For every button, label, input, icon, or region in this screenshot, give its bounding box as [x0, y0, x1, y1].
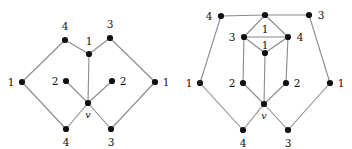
graph-edge [309, 15, 330, 83]
node-label-l-inner-2a: 2 [52, 76, 59, 87]
graph-edge [88, 103, 111, 129]
graph-edge [264, 83, 286, 104]
graph-node[interactable] [241, 34, 247, 40]
graph-edge [22, 82, 66, 129]
node-label-r-center-v: v [261, 111, 266, 121]
graph-node[interactable] [285, 34, 291, 40]
graph-node[interactable] [240, 127, 246, 133]
graph-node[interactable] [218, 13, 224, 19]
node-label-r-right-1: 1 [338, 78, 345, 89]
graph-node[interactable] [19, 79, 25, 85]
graph-node[interactable] [327, 80, 333, 86]
node-label-l-inner-2b: 2 [120, 76, 127, 87]
node-label-l-top-left-4: 4 [62, 21, 69, 32]
graph-edge [88, 81, 112, 103]
graph-node[interactable] [108, 126, 114, 132]
graph-node[interactable] [63, 78, 69, 84]
graph-node[interactable] [306, 12, 312, 18]
node-label-r-top-left-4: 4 [206, 11, 213, 22]
node-label-l-right-1: 1 [163, 77, 170, 88]
node-label-l-bot-right-3: 3 [108, 137, 115, 148]
node-label-r-mid-left-3: 3 [229, 32, 236, 43]
graph-node[interactable] [85, 100, 91, 106]
node-label-r-top-right-3: 3 [318, 10, 325, 21]
graph-edge [243, 37, 244, 83]
node-label-r-left-1: 1 [186, 78, 193, 89]
graph-node[interactable] [240, 80, 246, 86]
graph-edge [286, 37, 288, 83]
graph-edge [111, 82, 155, 129]
graph-node[interactable] [283, 80, 289, 86]
node-label-l-center-v: v [85, 110, 90, 120]
graph-node[interactable] [62, 37, 68, 43]
node-label-l-top-right-3: 3 [107, 19, 114, 30]
node-label-r-inner-1: 1 [262, 40, 269, 51]
graph-node[interactable] [197, 80, 203, 86]
graph-node[interactable] [261, 101, 267, 107]
graph-edge [264, 53, 265, 104]
node-label-l-left-1: 1 [8, 77, 15, 88]
graph-edge [221, 15, 265, 16]
node-label-r-mid-right-4: 4 [297, 32, 304, 43]
node-label-r-inner-2b: 2 [294, 78, 301, 89]
node-label-r-top-mid-1: 1 [262, 24, 269, 35]
node-label-l-bot-left-4: 4 [63, 137, 70, 148]
node-label-r-inner-2a: 2 [229, 78, 236, 89]
graph-node[interactable] [262, 12, 268, 18]
figure-container: 4311122v434133411122v43 [0, 0, 352, 149]
graph-edge [66, 81, 88, 103]
graph-edge [200, 16, 221, 83]
graph-edge [200, 83, 243, 130]
graph-edge [110, 38, 155, 82]
node-label-l-inner-1: 1 [86, 36, 93, 47]
graph-edge [265, 15, 288, 37]
graph-edge [88, 54, 89, 103]
graph-node[interactable] [86, 51, 92, 57]
graph-edge [288, 83, 330, 130]
node-label-r-bot-right-3: 3 [285, 138, 292, 149]
node-label-r-bot-left-4: 4 [240, 138, 247, 149]
graph-node[interactable] [107, 35, 113, 41]
graph-edge [243, 83, 264, 104]
graph-edge [264, 104, 288, 130]
graph-edge [22, 40, 65, 82]
graph-node[interactable] [152, 79, 158, 85]
graph-node[interactable] [63, 126, 69, 132]
graph-node[interactable] [109, 78, 115, 84]
graph-node[interactable] [262, 50, 268, 56]
graph-node[interactable] [285, 127, 291, 133]
graph-edge [265, 37, 288, 53]
edges-layer [22, 15, 330, 130]
